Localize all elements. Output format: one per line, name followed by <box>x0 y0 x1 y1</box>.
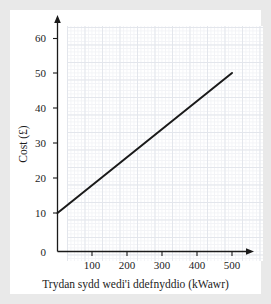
y-axis-title: Cost (£) <box>17 108 29 180</box>
chart-figure: 60 50 40 30 20 10 0 100 200 300 400 500 … <box>0 0 271 304</box>
x-tick-label-group: 100 200 300 400 500 <box>0 0 271 304</box>
x-tick-label-200: 200 <box>112 260 142 271</box>
x-tick-label-300: 300 <box>147 260 177 271</box>
x-tick-label-400: 400 <box>182 260 212 271</box>
chart-panel: 60 50 40 30 20 10 0 100 200 300 400 500 … <box>10 10 261 294</box>
x-tick-label-100: 100 <box>77 260 107 271</box>
x-axis-title: Trydan sydd wedi'i ddefnyddio (kWawr) <box>12 278 259 290</box>
x-tick-label-500: 500 <box>217 260 247 271</box>
